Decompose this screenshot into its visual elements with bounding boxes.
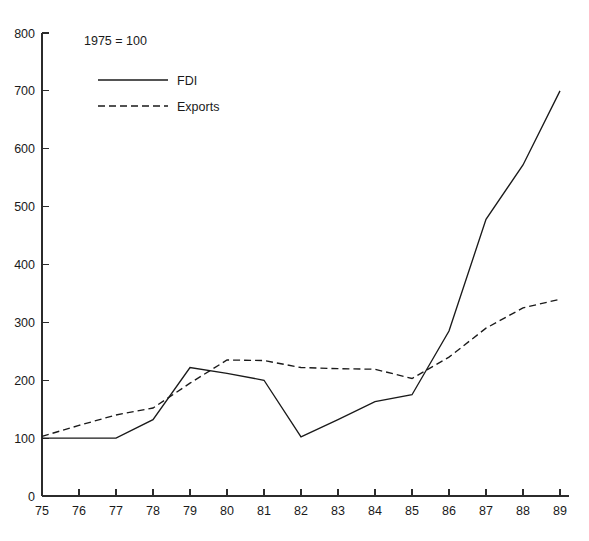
x-axis-tick-label: 84 <box>368 504 382 518</box>
line-chart: 0100200300400500600700800 75767778798081… <box>0 0 589 541</box>
chart-container: 0100200300400500600700800 75767778798081… <box>0 0 589 541</box>
y-axis-tick-label: 600 <box>14 142 35 156</box>
x-axis: 757677787980818283848586878889 <box>35 489 569 518</box>
chart-annotation: 1975 = 100 <box>84 34 147 48</box>
data-series-group <box>42 91 560 438</box>
y-axis-tick-label: 500 <box>14 200 35 214</box>
series-line-exports <box>42 299 560 436</box>
y-axis-tick-label: 100 <box>14 432 35 446</box>
y-axis-tick-label: 700 <box>14 84 35 98</box>
x-axis-tick-label: 80 <box>220 504 234 518</box>
x-axis-tick-label: 77 <box>109 504 123 518</box>
chart-legend: FDIExports <box>98 74 219 114</box>
series-line-fdi <box>42 91 560 438</box>
x-axis-tick-label: 89 <box>553 504 567 518</box>
x-axis-tick-label: 78 <box>146 504 160 518</box>
x-axis-tick-label: 86 <box>442 504 456 518</box>
y-axis-tick-label: 400 <box>14 258 35 272</box>
y-axis-tick-label: 200 <box>14 374 35 388</box>
y-axis-tick-label: 0 <box>28 490 35 504</box>
x-axis-tick-label: 79 <box>183 504 197 518</box>
x-axis-tick-label: 83 <box>331 504 345 518</box>
x-axis-tick-label: 85 <box>405 504 419 518</box>
legend-label-fdi: FDI <box>177 74 197 88</box>
x-axis-tick-label: 75 <box>35 504 49 518</box>
y-axis: 0100200300400500600700800 <box>14 27 49 504</box>
y-axis-tick-label: 800 <box>14 27 35 41</box>
x-axis-tick-label: 82 <box>294 504 308 518</box>
x-axis-tick-label: 76 <box>72 504 86 518</box>
y-axis-tick-label: 300 <box>14 316 35 330</box>
x-axis-tick-label: 88 <box>516 504 530 518</box>
x-axis-tick-label: 87 <box>479 504 493 518</box>
x-axis-tick-label: 81 <box>257 504 271 518</box>
base-year-note: 1975 = 100 <box>84 34 147 48</box>
legend-label-exports: Exports <box>177 100 219 114</box>
